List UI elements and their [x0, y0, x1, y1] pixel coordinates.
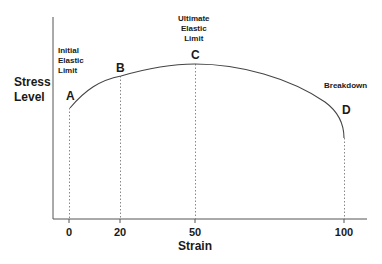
point-label-c: C [191, 48, 200, 62]
annotation-line: Initial [58, 46, 84, 56]
y-axis-label-line1: Stress [14, 75, 51, 90]
annotation-line: Elastic [58, 56, 84, 66]
x-tick-label-0: 0 [66, 226, 72, 238]
annotation-line: Limit [58, 66, 84, 76]
y-axis-label-line2: Level [14, 90, 51, 105]
y-axis-label: Stress Level [14, 75, 51, 105]
annotation-line: Ultimate [178, 14, 210, 24]
annotation-line: Elastic [178, 24, 210, 34]
initial-elastic-limit-annotation: Initial Elastic Limit [58, 46, 84, 76]
point-label-b: B [116, 61, 125, 75]
ultimate-elastic-limit-annotation: Ultimate Elastic Limit [178, 14, 210, 44]
breakdown-annotation: Breakdown [324, 81, 367, 91]
point-label-a: A [66, 89, 75, 103]
x-tick-label-100: 100 [335, 226, 353, 238]
x-tick-label-50: 50 [189, 226, 201, 238]
annotation-line: Limit [178, 34, 210, 44]
x-tick-label-20: 20 [114, 226, 126, 238]
stress-strain-curve [70, 64, 344, 138]
point-label-d: D [342, 103, 351, 117]
x-axis-label: Strain [178, 239, 212, 253]
